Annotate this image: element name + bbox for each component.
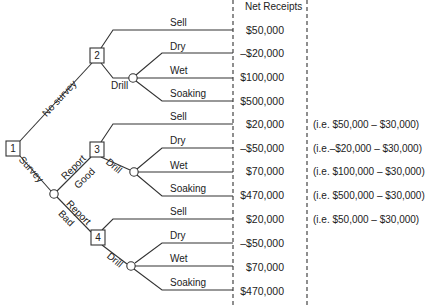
branch-label: Sell (170, 111, 187, 122)
node-1-label: 1 (6, 141, 20, 156)
calculation-note: (i.e. $50,000 – $30,000) (313, 119, 419, 130)
branch-label: Soaking (170, 277, 206, 288)
branch-label: Wet (170, 253, 188, 264)
branch-label: Soaking (170, 88, 206, 99)
branch-label: Wet (170, 65, 188, 76)
net-receipt-value: $70,000 (214, 262, 284, 273)
net-receipt-value: $470,000 (214, 190, 284, 201)
calculation-note: (i.e. $100,000 – $30,000) (313, 166, 425, 177)
net-receipts-header: Net Receipts (245, 1, 302, 12)
net-receipt-value: $500,000 (214, 96, 284, 107)
node-2-label: 2 (90, 48, 104, 63)
net-receipt-value: $470,000 (214, 286, 284, 297)
branch-label: Dry (170, 41, 186, 52)
calculation-note: (i.e.–$20,000 – $30,000) (313, 143, 422, 154)
net-receipt-value: –$20,000 (214, 48, 284, 59)
node-4-label: 4 (91, 230, 105, 245)
chance-node-drill-4 (127, 262, 135, 270)
branch-label: Sell (170, 206, 187, 217)
net-receipt-value: –$50,000 (214, 143, 284, 154)
net-receipt-value: $100,000 (214, 72, 284, 83)
chance-node-drill-3 (130, 168, 138, 176)
branch-label: Dry (170, 230, 186, 241)
net-receipt-value: $50,000 (214, 25, 284, 36)
edge-label-drill-2: Drill (111, 80, 128, 91)
net-receipt-value: $70,000 (214, 166, 284, 177)
calculation-note: (i.e. $50,000 – $30,000) (313, 214, 419, 225)
chance-node-drill-2 (129, 74, 137, 82)
net-receipt-value: $20,000 (214, 214, 284, 225)
calculation-note: (i.e. $500,000 – $30,000) (313, 190, 425, 201)
branch-label: Soaking (170, 183, 206, 194)
node-3-label: 3 (90, 142, 104, 157)
net-receipt-value: –$50,000 (214, 238, 284, 249)
branch-label: Sell (170, 17, 187, 28)
net-receipt-value: $20,000 (214, 119, 284, 130)
branch-label: Dry (170, 135, 186, 146)
chance-node-survey (50, 190, 58, 198)
branch-label: Wet (170, 160, 188, 171)
